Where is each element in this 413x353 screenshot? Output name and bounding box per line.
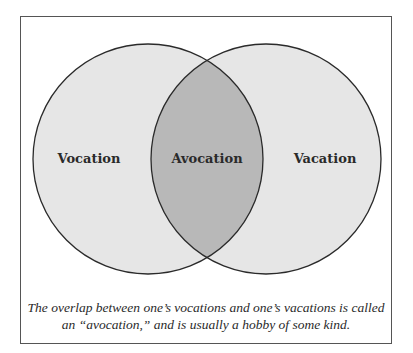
caption-line-1: The overlap between one’s vocations and …: [20, 299, 392, 316]
vacation-label: Vacation: [294, 151, 357, 166]
caption-line-2: an “avocation,” and is usually a hobby o…: [20, 316, 392, 333]
vocation-label: Vocation: [58, 151, 121, 166]
avocation-label: Avocation: [171, 151, 242, 166]
figure-caption: The overlap between one’s vocations and …: [20, 299, 392, 333]
